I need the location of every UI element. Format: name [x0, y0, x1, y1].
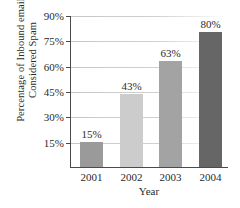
y-axis-tick-label: 15%	[44, 138, 64, 149]
bar	[199, 32, 222, 167]
y-axis-tick-label: 45%	[44, 87, 64, 98]
bar	[80, 142, 103, 167]
x-axis-title: Year	[70, 186, 228, 197]
bar-value-label: 80%	[189, 19, 232, 30]
y-axis-title-line2: Considered Spam	[27, 22, 40, 98]
bar-value-label: 43%	[110, 81, 153, 92]
x-axis-tick-label: 2002	[112, 172, 151, 183]
y-axis-tick-label: 75%	[44, 36, 64, 47]
y-axis-tick-label: 90%	[44, 11, 64, 22]
x-axis-tick-label: 2004	[191, 172, 230, 183]
bar	[159, 61, 182, 167]
y-axis-tick-label: 30%	[44, 112, 64, 123]
x-axis-tick-label: 2003	[151, 172, 190, 183]
x-axis-tick-label: 2001	[72, 172, 111, 183]
bar-value-label: 15%	[70, 129, 113, 140]
y-axis-line	[70, 16, 71, 168]
bar	[120, 94, 143, 167]
y-axis-title: Percentage of Inbound email Considered S…	[13, 0, 41, 134]
chart-title-cutoff	[60, 0, 238, 4]
x-axis-line	[70, 167, 228, 168]
gridline	[71, 16, 228, 17]
plot-area: 90%75%60%45%30%15% 15%43%63%80% 20012002…	[70, 16, 228, 168]
y-axis-tick-label: 60%	[44, 62, 64, 73]
y-axis-title-line1: Percentage of Inbound email	[15, 0, 28, 122]
bar-value-label: 63%	[149, 48, 192, 59]
